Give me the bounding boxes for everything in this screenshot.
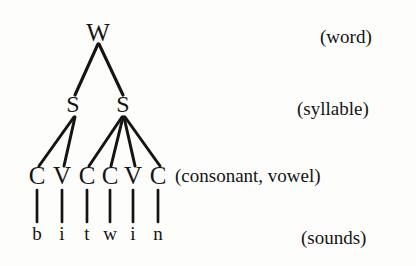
tree-node-word: W xyxy=(78,20,118,45)
tier-label-syllable: (syllable) xyxy=(297,99,369,118)
tier-label-word: (word) xyxy=(320,27,372,46)
tree-node-sound-1: b xyxy=(24,224,50,243)
tree-node-syllable-1: S xyxy=(55,92,91,116)
branch-word-to-syllable-2 xyxy=(99,44,123,95)
branch-word-to-syllable-1 xyxy=(75,44,98,95)
tree-node-sound-2: i xyxy=(49,224,75,243)
tier-label-consonant-vowel: (consonant, vowel) xyxy=(175,166,321,185)
tier-label-sounds: (sounds) xyxy=(301,228,366,247)
tree-node-sound-6: n xyxy=(145,224,171,243)
phonological-tree-figure: W S S C V C C V C b i t w i n (word) (sy… xyxy=(0,0,416,266)
tree-node-syllable-2: S xyxy=(105,92,141,116)
tree-node-sound-5: i xyxy=(120,224,146,243)
tree-node-segment-6: C xyxy=(143,163,173,188)
